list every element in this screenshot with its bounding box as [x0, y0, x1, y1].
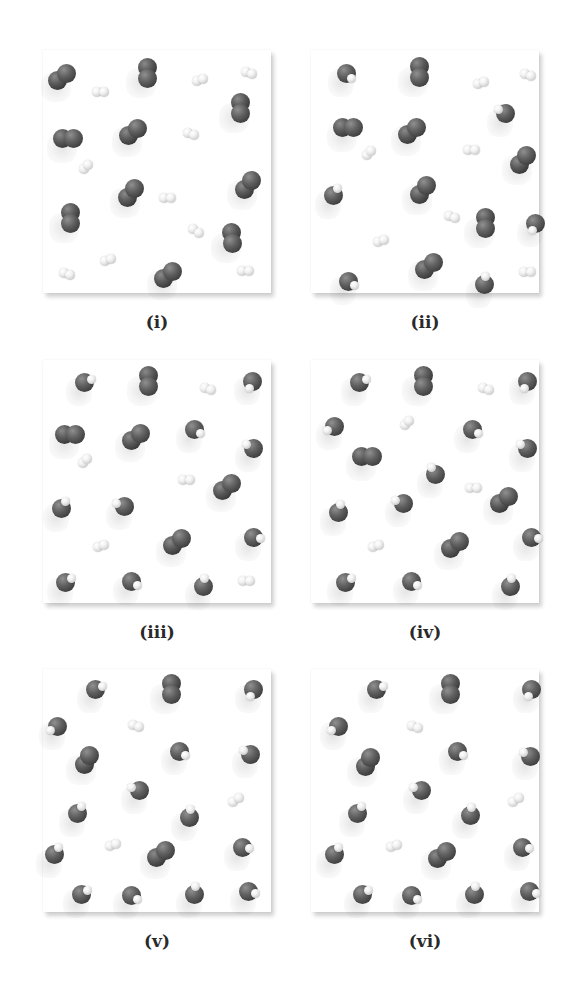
hydrogen-atom: [166, 193, 176, 203]
panel-vi: [311, 669, 539, 912]
hydrogen-atom: [54, 843, 63, 852]
panel-label-iv: (iv): [311, 622, 539, 642]
hydrogen-atom: [111, 839, 121, 849]
hydrogen-atom: [472, 483, 482, 493]
hydrogen-atom: [471, 882, 480, 891]
hydrogen-atom: [534, 534, 543, 543]
panel-iv: [311, 360, 539, 603]
hydrogen-atom: [186, 805, 195, 814]
hydrogen-atom: [379, 235, 389, 245]
oxygen-atom: [476, 219, 495, 238]
hydrogen-atom: [459, 751, 468, 760]
oxygen-atom: [222, 474, 241, 493]
hydrogen-atom: [347, 74, 356, 83]
hydrogen-atom: [244, 266, 254, 276]
panel-iii: [43, 360, 271, 603]
hydrogen-atom: [357, 802, 366, 811]
hydrogen-atom: [374, 540, 384, 550]
hydrogen-atom: [413, 581, 422, 590]
oxygen-atom: [437, 842, 456, 861]
hydrogen-atom: [526, 267, 536, 277]
hydrogen-atom: [516, 440, 525, 449]
hydrogen-atom: [474, 429, 483, 438]
hydrogen-atom: [251, 889, 260, 898]
hydrogen-atom: [364, 886, 373, 895]
oxygen-atom: [344, 118, 363, 137]
hydrogen-atom: [133, 895, 142, 904]
hydrogen-atom: [528, 226, 537, 235]
hydrogen-atom: [77, 802, 86, 811]
oxygen-atom: [163, 262, 182, 281]
hydrogen-atom: [327, 726, 336, 735]
hydrogen-atom: [256, 534, 265, 543]
hydrogen-atom: [532, 889, 541, 898]
hydrogen-atom: [450, 213, 460, 223]
panel-v: [43, 669, 271, 912]
hydrogen-atom: [198, 74, 208, 84]
hydrogen-atom: [65, 270, 75, 280]
oxygen-atom: [172, 529, 191, 548]
panel-ii: [311, 50, 539, 293]
panel-i: [43, 50, 271, 293]
hydrogen-atom: [106, 254, 116, 264]
hydrogen-atom: [413, 895, 422, 904]
hydrogen-atom: [470, 145, 480, 155]
hydrogen-atom: [191, 882, 200, 891]
oxygen-atom: [57, 64, 76, 83]
hydrogen-atom: [189, 130, 199, 140]
hydrogen-atom: [333, 184, 342, 193]
hydrogen-atom: [242, 440, 251, 449]
oxygen-atom: [242, 171, 261, 190]
hydrogen-atom: [413, 723, 423, 733]
hydrogen-atom: [347, 574, 356, 583]
hydrogen-atom: [467, 803, 476, 812]
oxygen-atom: [138, 69, 157, 88]
hydrogen-atom: [196, 429, 205, 438]
hydrogen-atom: [245, 844, 254, 853]
hydrogen-atom: [494, 105, 503, 114]
hydrogen-atom: [479, 77, 489, 87]
hydrogen-atom: [507, 574, 516, 583]
hydrogen-atom: [46, 726, 55, 735]
hydrogen-atom: [392, 840, 402, 850]
hydrogen-atom: [82, 454, 92, 464]
hydrogen-atom: [127, 783, 136, 792]
oxygen-atom: [64, 129, 83, 148]
oxygen-atom: [517, 146, 536, 165]
panel-label-iii: (iii): [43, 622, 271, 642]
oxygen-atom: [417, 176, 436, 195]
panel-label-i: (i): [43, 312, 271, 332]
hydrogen-atom: [194, 228, 204, 238]
hydrogen-atom: [83, 886, 92, 895]
oxygen-atom: [80, 746, 99, 765]
hydrogen-atom: [234, 793, 244, 803]
oxygen-atom: [66, 425, 85, 444]
hydrogen-atom: [133, 581, 142, 590]
oxygen-atom: [450, 532, 469, 551]
oxygen-atom: [61, 214, 80, 233]
oxygen-atom: [139, 377, 158, 396]
hydrogen-atom: [112, 499, 121, 508]
hydrogen-atom: [61, 497, 70, 506]
oxygen-atom: [414, 377, 433, 396]
hydrogen-atom: [519, 748, 528, 757]
hydrogen-atom: [181, 751, 190, 760]
oxygen-atom: [424, 253, 443, 272]
panel-label-ii: (ii): [311, 312, 539, 332]
hydrogen-atom: [334, 843, 343, 852]
oxygen-atom: [128, 119, 147, 138]
hydrogen-atom: [67, 574, 76, 583]
hydrogen-atom: [200, 574, 209, 583]
oxygen-atom: [499, 487, 518, 506]
hydrogen-atom: [247, 69, 257, 79]
hydrogen-atom: [239, 746, 248, 755]
hydrogen-atom: [409, 783, 418, 792]
hydrogen-atom: [524, 692, 533, 701]
cropped-caption-strip: [0, 0, 569, 4]
hydrogen-atom: [362, 375, 371, 384]
oxygen-atom: [231, 104, 250, 123]
oxygen-atom: [407, 118, 426, 137]
hydrogen-atom: [404, 416, 414, 426]
hydrogen-atom: [323, 426, 332, 435]
hydrogen-atom: [245, 384, 254, 393]
